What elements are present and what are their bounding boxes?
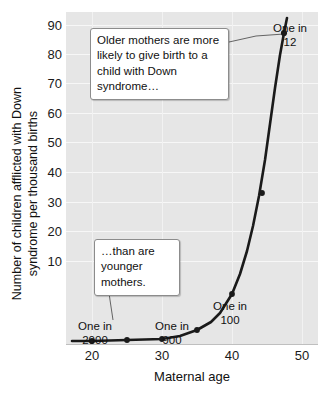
x-tick-50: 50 [279,349,325,362]
gridline-y-20 [66,231,318,232]
callout-younger-mothers-line2: younger mothers. [101,259,173,290]
y-tick-90: 90 [4,19,62,32]
gridline-y-30 [66,202,318,203]
figure-down-syndrome-maternal-age: 90 80 70 60 50 40 30 20 10 20 30 40 50 N… [0,0,333,396]
point-label-one-in-900: One in 900 [140,320,204,348]
callout-younger-mothers-line1: …than are [101,244,173,259]
x-axis-title: Maternal age [66,369,318,384]
y-axis-title: Number of children afflicted with Down s… [10,64,41,324]
x-tick-30: 30 [139,349,185,362]
x-tick-40: 40 [209,349,255,362]
gridline-x-40 [232,12,233,344]
callout-younger-mothers: …than are younger mothers. [94,239,180,296]
callout-older-mothers-line1: Older mothers are more [97,33,222,48]
callout-older-mothers-line2: likely to give birth to a [97,48,222,63]
point-label-one-in-12: One in 12 [258,22,322,50]
gridline-y-50 [66,142,318,143]
figure-caption [8,388,328,396]
callout-older-mothers: Older mothers are more likely to give bi… [90,28,229,100]
y-tick-80: 80 [4,48,62,61]
gridline-x-50 [302,12,303,344]
point-label-one-in-2000: One in 2000 [63,320,127,348]
callout-older-mothers-line3: child with Down syndrome… [97,64,222,95]
x-tick-20: 20 [69,349,115,362]
gridline-y-60 [66,113,318,114]
gridline-y-40 [66,172,318,173]
point-label-one-in-100: One in 100 [198,300,262,328]
